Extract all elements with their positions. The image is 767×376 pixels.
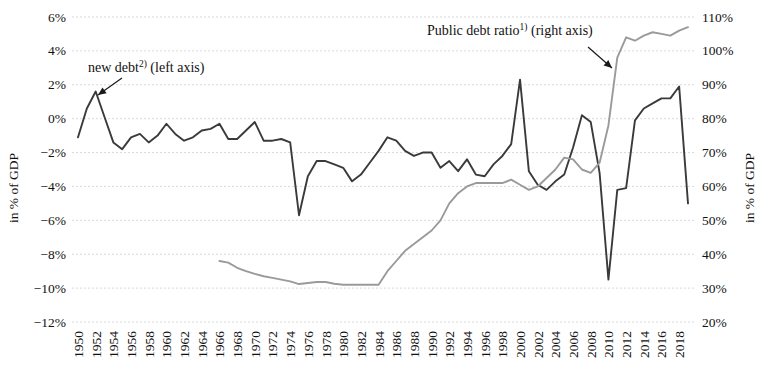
x-axis-tick: 1976 xyxy=(301,331,316,358)
line-chart-figure: 6%4%2%0%−2%−4%−6%−8%−10%−12% 110%100%90%… xyxy=(0,0,767,376)
x-axis-tick: 2008 xyxy=(584,331,599,358)
y-axis-left-tick: 0% xyxy=(48,111,66,126)
x-axis-tick-labels: 1950195219541956195819601962196419661968… xyxy=(71,331,687,358)
x-axis-tick: 1954 xyxy=(106,331,121,358)
new-debt-label: new debt2) (left axis) xyxy=(88,59,205,76)
new-debt-arrow xyxy=(98,78,122,95)
new-debt-label-suffix: (left axis) xyxy=(147,60,205,76)
x-axis-tick: 1974 xyxy=(283,331,298,358)
series-line-public-debt-ratio xyxy=(219,27,688,285)
y-axis-left-tick: −6% xyxy=(40,213,66,228)
y-axis-left-tick: 6% xyxy=(48,10,66,25)
x-axis-tick: 1970 xyxy=(248,331,263,358)
x-axis-tick: 2012 xyxy=(619,331,634,358)
x-axis-tick: 1992 xyxy=(442,331,457,358)
y-axis-left-tick: −2% xyxy=(40,145,66,160)
x-axis-tick: 1956 xyxy=(124,331,139,358)
x-axis-tick: 1986 xyxy=(389,331,404,358)
new-debt-label-text: new debt xyxy=(88,60,139,75)
y-axis-left-tick: −4% xyxy=(40,179,66,194)
y-axis-left-tick: 2% xyxy=(48,77,66,92)
x-axis-tick: 1968 xyxy=(230,331,245,358)
x-axis-tick: 2006 xyxy=(566,331,581,358)
x-axis-tick: 1966 xyxy=(212,331,227,358)
x-axis-tick: 1960 xyxy=(159,331,174,358)
public-debt-ratio-label: Public debt ratio1) (right axis) xyxy=(427,22,593,39)
x-axis-tick: 1980 xyxy=(336,331,351,358)
y-axis-left-tick-labels: 6%4%2%0%−2%−4%−6%−8%−10%−12% xyxy=(34,10,66,330)
y-axis-right-tick: 60% xyxy=(702,179,727,194)
x-axis-tick: 1982 xyxy=(354,331,369,358)
y-axis-right-tick: 40% xyxy=(702,247,727,262)
x-axis-tick: 1972 xyxy=(265,331,280,358)
y-axis-left-tick: −8% xyxy=(40,247,66,262)
y-axis-right-tick: 50% xyxy=(702,213,727,228)
x-axis-tick: 2002 xyxy=(531,331,546,358)
series-line-new-debt xyxy=(78,80,688,280)
y-axis-right-tick: 30% xyxy=(702,281,727,296)
x-axis-tick: 1996 xyxy=(478,331,493,358)
public-debt-ratio-arrow xyxy=(588,47,612,68)
y-axis-left-tick: −10% xyxy=(34,281,66,296)
x-axis-tick: 1950 xyxy=(71,331,86,358)
y-axis-left-title: in % of GDP xyxy=(6,153,21,223)
new-debt-label-superscript: 2) xyxy=(139,59,147,70)
x-axis-tick: 2014 xyxy=(637,331,652,358)
x-axis-tick: 1964 xyxy=(195,331,210,358)
x-axis-tick: 2000 xyxy=(513,331,528,358)
y-axis-left-tick: −12% xyxy=(34,315,66,330)
x-axis-tick: 1990 xyxy=(425,331,440,358)
x-axis-tick: 1988 xyxy=(407,331,422,358)
y-axis-right-tick-labels: 110%100%90%80%70%60%50%40%30%20% xyxy=(702,10,734,330)
chart-container: 6%4%2%0%−2%−4%−6%−8%−10%−12% 110%100%90%… xyxy=(0,0,767,376)
x-axis-tick: 2016 xyxy=(654,331,669,358)
x-axis-tick: 1978 xyxy=(319,331,334,358)
y-axis-right-tick: 100% xyxy=(702,43,734,58)
x-axis-tick: 1952 xyxy=(89,331,104,358)
y-axis-right-title: in % of GDP xyxy=(742,153,757,223)
x-axis-tick: 1998 xyxy=(495,331,510,358)
public-debt-ratio-label-text: Public debt ratio xyxy=(427,23,520,38)
x-axis-tick: 1994 xyxy=(460,331,475,358)
x-axis-tick: 1984 xyxy=(372,331,387,358)
y-axis-right-tick: 20% xyxy=(702,315,727,330)
x-axis-tick: 2004 xyxy=(548,331,563,358)
y-axis-right-tick: 90% xyxy=(702,77,727,92)
y-axis-left-tick: 4% xyxy=(48,43,66,58)
public-debt-ratio-label-suffix: (right axis) xyxy=(527,23,593,39)
x-axis-tick: 2010 xyxy=(601,331,616,358)
x-axis-tick: 1962 xyxy=(177,331,192,358)
annotation-layer: new debt2) (left axis)Public debt ratio1… xyxy=(88,22,612,95)
y-axis-right-tick: 80% xyxy=(702,111,727,126)
public-debt-ratio-label-superscript: 1) xyxy=(520,22,528,33)
x-axis-tick: 2018 xyxy=(672,331,687,358)
y-axis-right-tick: 70% xyxy=(702,145,727,160)
y-axis-right-tick: 110% xyxy=(702,10,733,25)
x-axis-tick: 1958 xyxy=(142,331,157,358)
